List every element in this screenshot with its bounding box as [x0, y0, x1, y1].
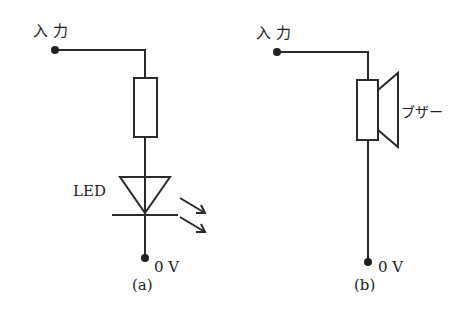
light-arrows-icon — [180, 198, 205, 232]
buzzer-label: ブザー — [401, 104, 443, 120]
a-resistor — [134, 78, 157, 137]
b-input-terminal — [273, 48, 281, 56]
buzzer-flare — [378, 73, 398, 147]
a-ground-terminal — [141, 254, 149, 262]
caption-b: (b) — [354, 276, 375, 294]
b-input-wire — [277, 52, 368, 80]
a-input-wire — [55, 50, 145, 78]
a-input-label: 入 力 — [33, 22, 68, 40]
a-ground-label: 0 V — [154, 258, 180, 276]
b-ground-terminal — [364, 258, 372, 266]
b-ground-label: 0 V — [378, 258, 404, 276]
b-input-label: 入 力 — [256, 24, 291, 42]
caption-a: (a) — [132, 276, 153, 294]
led-label: LED — [73, 182, 106, 200]
a-input-terminal — [51, 46, 59, 54]
circuit-diagram: 入 力 LED 0 V (a) 入 力 ブザー 0 V (b) — [0, 0, 473, 315]
buzzer-body — [357, 80, 378, 140]
